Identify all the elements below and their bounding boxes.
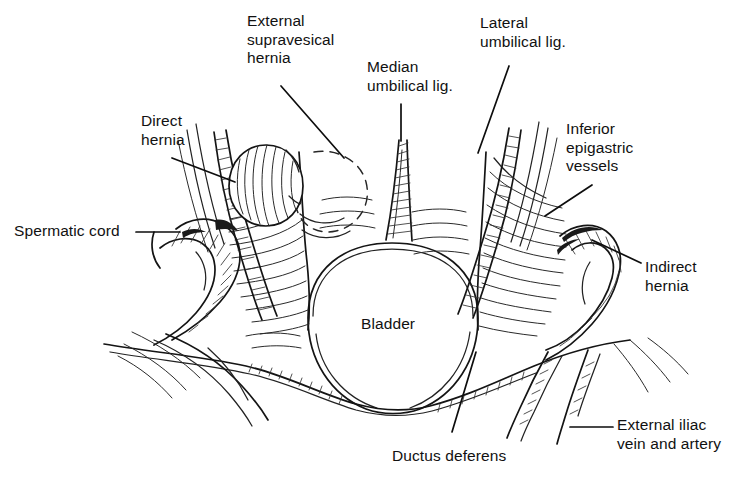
label-external-supravesical-hernia: External supravesical hernia	[247, 12, 334, 68]
label-direct-hernia: Direct hernia	[141, 112, 185, 149]
label-inferior-epigastric-vessels: Inferior epigastric vessels	[566, 120, 633, 176]
diagram-canvas: .o{fill:none;stroke:#141414;stroke-width…	[0, 0, 733, 479]
label-bladder: Bladder	[361, 315, 415, 334]
label-external-iliac-vein-and-artery: External iliac vein and artery	[617, 416, 721, 453]
label-lateral-umbilical-lig: Lateral umbilical lig.	[480, 14, 566, 51]
label-indirect-hernia: Indirect hernia	[645, 258, 697, 295]
label-spermatic-cord: Spermatic cord	[14, 222, 120, 241]
left-direct-hernia-bulge	[229, 145, 303, 226]
label-ductus-deferens: Ductus deferens	[392, 447, 506, 466]
label-median-umbilical-lig: Median umbilical lig.	[367, 58, 453, 95]
